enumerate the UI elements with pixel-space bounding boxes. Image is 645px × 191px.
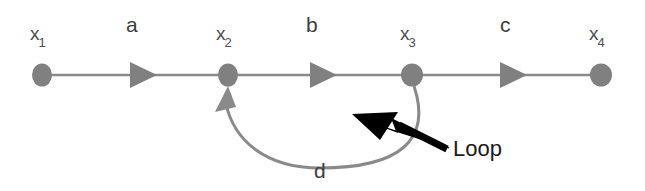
- node-label-x4-subscript: 4: [598, 35, 605, 50]
- edge-label-a: a: [126, 14, 138, 35]
- node-label-x2-subscript: 2: [225, 35, 232, 50]
- node-label-x3: x3: [400, 24, 417, 47]
- edge-label-d: d: [314, 160, 326, 181]
- node-label-x4: x4: [589, 24, 606, 47]
- arrowhead-b-icon: [310, 62, 337, 88]
- arrowhead-c-icon: [500, 62, 527, 88]
- node-x2[interactable]: [218, 64, 238, 87]
- node-x3[interactable]: [401, 64, 423, 87]
- loop-annotation-arrow-icon: [352, 112, 449, 149]
- signal-flow-diagram: x1 x2 x3 x4 a b c d Loop: [0, 0, 645, 191]
- edge-label-b: b: [306, 14, 318, 35]
- node-label-x1-subscript: 1: [39, 35, 46, 50]
- arrowhead-d-icon: [215, 86, 236, 112]
- arrowhead-a-icon: [130, 62, 157, 88]
- annotation-label-loop: Loop: [453, 138, 502, 160]
- edge-label-c: c: [500, 14, 511, 35]
- node-label-x3-subscript: 3: [409, 35, 416, 50]
- node-x1[interactable]: [32, 64, 52, 87]
- node-label-x2: x2: [216, 24, 233, 47]
- node-label-x1: x1: [30, 24, 47, 47]
- loop-arc-path: [226, 86, 419, 168]
- node-x4[interactable]: [590, 64, 612, 87]
